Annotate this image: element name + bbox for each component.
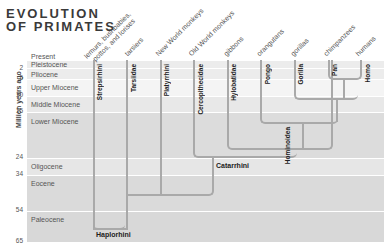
branch-catarrhini — [160, 186, 214, 196]
branch-catarrhini-stem — [212, 156, 214, 188]
y-axis-label: Million years ago — [15, 70, 22, 130]
taxon-hylobatidae: Hylobatidae — [230, 64, 237, 101]
branch-pongo-stem — [302, 122, 304, 148]
title-line-2: OF PRIMATES — [6, 20, 116, 33]
era-present: Present — [31, 53, 55, 60]
label-humans: humans — [354, 35, 377, 58]
era-middle-miocene: Middle Miocene — [31, 101, 80, 108]
branch-pan-homo-stem — [343, 78, 345, 98]
era-pleistocene: Pleistocene — [31, 61, 67, 68]
era-lower-miocene: Lower Miocene — [31, 118, 78, 125]
band-paleocene — [27, 212, 384, 242]
label-orangutans: orangutans — [255, 28, 285, 58]
tick-54: 54 — [3, 206, 23, 213]
branch-gorilla-stem — [336, 98, 338, 122]
band-oligocene — [27, 159, 384, 175]
label-gibbons: gibbons — [222, 35, 245, 58]
branch-platyrrhini — [160, 60, 162, 194]
taxon-pongo: Pongo — [264, 64, 271, 84]
tick-65: 65 — [3, 237, 23, 244]
era-paleocene: Paleocene — [31, 216, 64, 223]
label-tarsiers: tarsiers — [123, 36, 145, 58]
era-upper-miocene: Upper Miocene — [31, 84, 78, 91]
taxon-cercopithecidae: Cercopithecidae — [197, 64, 204, 115]
label-gorillas: gorillas — [289, 37, 310, 58]
taxon-pan: Pan — [331, 64, 338, 76]
taxon-strepsirhini: Strepsirhini — [96, 64, 103, 100]
branch-tarsiidae — [126, 60, 128, 228]
tick-34: 34 — [3, 170, 23, 177]
clade-haplorhini: Haplorhini — [96, 231, 131, 238]
clade-catarrhini: Catarrhini — [216, 162, 249, 169]
clade-hominoidea: Hominoidea — [284, 127, 291, 164]
era-pliocene: Pliocene — [31, 71, 58, 78]
label-chimpanzees: chimpanzees — [322, 23, 357, 58]
branch-anthropoid-join — [126, 194, 162, 196]
taxon-gorilla: Gorilla — [297, 64, 304, 85]
era-oligocene: Oligocene — [31, 163, 63, 170]
branch-root-join — [93, 228, 128, 230]
page-title: EVOLUTION OF PRIMATES — [6, 7, 116, 33]
taxon-homo: Homo — [364, 64, 371, 82]
era-eocene: Eocene — [31, 180, 55, 187]
taxon-platyrrhini: Platyrrhini — [163, 64, 170, 96]
tick-24: 24 — [3, 153, 23, 160]
taxon-tarsiidae: Tarsiidae — [130, 64, 137, 92]
